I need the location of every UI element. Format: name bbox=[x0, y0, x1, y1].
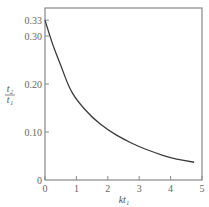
y-tick-label: 0 bbox=[37, 175, 42, 186]
svg-text:t₁: t₁ bbox=[7, 94, 13, 105]
x-tick-label: 4 bbox=[168, 183, 173, 194]
x-tick-label: 3 bbox=[137, 183, 142, 194]
x-tick-label: 0 bbox=[43, 183, 48, 194]
x-axis-label: kt₁ bbox=[119, 194, 130, 205]
x-tick-label: 1 bbox=[74, 183, 79, 194]
chart: 01234500.100.200.300.33kt₁t₂t₁ bbox=[0, 0, 209, 207]
y-tick-label: 0.33 bbox=[25, 15, 43, 26]
y-tick-label: 0.20 bbox=[25, 79, 43, 90]
y-tick-label: 0.30 bbox=[25, 31, 43, 42]
y-axis-label: t₂t₁ bbox=[5, 83, 15, 105]
data-curve bbox=[45, 20, 194, 162]
svg-text:t₂: t₂ bbox=[7, 83, 14, 94]
x-tick-label: 2 bbox=[105, 183, 110, 194]
plot-frame bbox=[45, 8, 202, 180]
x-tick-label: 5 bbox=[200, 183, 205, 194]
y-tick-label: 0.10 bbox=[25, 127, 43, 138]
